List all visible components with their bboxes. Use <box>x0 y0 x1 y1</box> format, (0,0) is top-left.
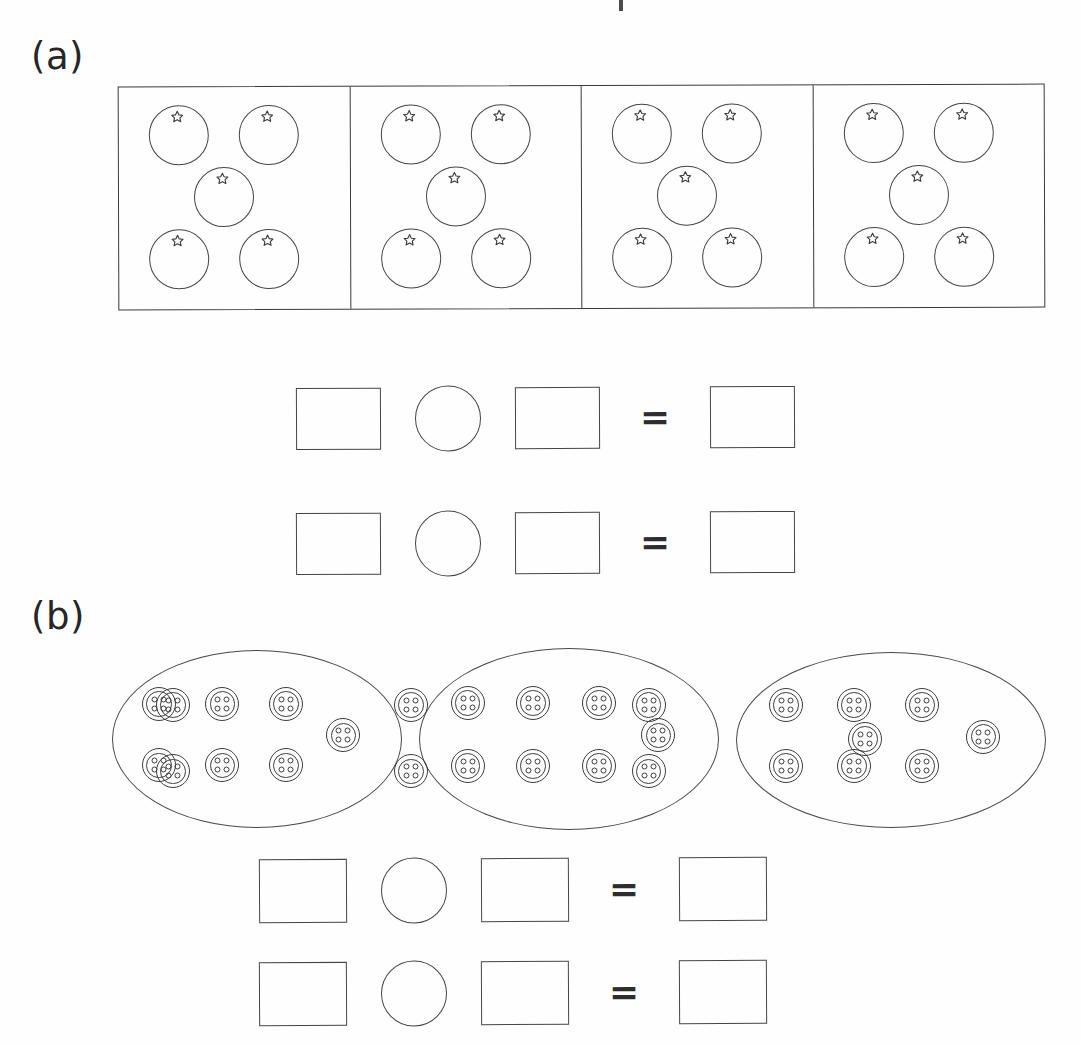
button-icon <box>394 688 428 722</box>
answer-box[interactable] <box>259 859 347 923</box>
button-hole <box>174 698 180 704</box>
button-hole <box>600 705 606 711</box>
circle-with-star <box>702 103 762 163</box>
button-icon <box>205 748 239 782</box>
equation-row-b2: = <box>259 957 768 1030</box>
button-hole <box>403 698 409 704</box>
button-hole <box>591 758 597 764</box>
answer-box[interactable] <box>481 858 569 922</box>
star-icon <box>493 233 506 246</box>
button-holes <box>403 764 418 779</box>
button-hole <box>224 767 230 773</box>
panel-1 <box>119 87 351 310</box>
button-hole <box>526 696 532 702</box>
button-holes <box>460 758 475 773</box>
button-hole <box>914 698 920 704</box>
button-hole <box>985 738 991 744</box>
button-hole <box>460 767 466 773</box>
button-icon <box>451 686 485 720</box>
button-icon <box>905 749 939 783</box>
button-icon <box>394 754 428 788</box>
button-hole <box>287 767 293 773</box>
star-icon <box>865 108 878 121</box>
circle-with-star <box>844 227 904 287</box>
button-icon <box>966 720 1000 754</box>
answer-box[interactable] <box>710 386 795 448</box>
button-icon <box>837 688 871 722</box>
button-hole <box>976 729 982 735</box>
button-icon <box>156 688 190 722</box>
button-hole <box>469 758 475 764</box>
button-hole <box>857 732 863 738</box>
button-hole <box>469 705 475 711</box>
button-holes <box>847 698 862 713</box>
equals-sign: = <box>609 871 639 907</box>
button-hole <box>403 773 409 779</box>
answer-box[interactable] <box>296 388 381 450</box>
button-icon <box>269 748 303 782</box>
button-hole <box>165 698 171 704</box>
equation-row-b1: = <box>259 854 768 927</box>
circle-with-star <box>471 228 531 288</box>
panel-strip-a <box>118 84 1046 311</box>
button-hole <box>278 767 284 773</box>
button-hole <box>460 696 466 702</box>
button-hole <box>857 741 863 747</box>
button-holes <box>336 728 351 743</box>
answer-box[interactable] <box>259 962 347 1026</box>
star-icon <box>910 170 923 183</box>
answer-box[interactable] <box>515 512 600 574</box>
button-hole <box>287 705 293 711</box>
circle-with-star <box>149 229 209 289</box>
ellipse-group-2 <box>419 648 719 830</box>
equation-row-a1: = <box>296 382 795 454</box>
equals-sign: = <box>640 399 670 435</box>
circle-with-star <box>702 227 762 287</box>
button-hole <box>650 698 656 704</box>
button-icon <box>848 722 882 756</box>
star-icon <box>216 172 229 185</box>
star-icon <box>492 109 505 122</box>
button-holes <box>847 759 862 774</box>
answer-box[interactable] <box>710 511 795 573</box>
button-hole <box>460 758 466 764</box>
button-hole <box>779 759 785 765</box>
button-holes <box>641 698 656 713</box>
button-hole <box>856 707 862 713</box>
operator-circle[interactable] <box>381 857 447 923</box>
panel-2 <box>350 86 582 309</box>
button-holes <box>779 759 794 774</box>
button-hole <box>600 758 606 764</box>
button-hole <box>174 773 180 779</box>
button-hole <box>469 696 475 702</box>
circle-with-star <box>381 228 441 288</box>
circle-with-star <box>934 227 994 287</box>
operator-circle[interactable] <box>381 960 447 1026</box>
star-icon <box>679 171 692 184</box>
star-icon <box>171 110 184 123</box>
button-hole <box>535 705 541 711</box>
circle-with-star <box>933 103 993 163</box>
equals-sign: = <box>609 974 639 1010</box>
button-hole <box>287 696 293 702</box>
button-hole <box>535 758 541 764</box>
answer-box[interactable] <box>679 857 767 921</box>
answer-box[interactable] <box>515 387 600 449</box>
button-hole <box>650 764 656 770</box>
circle-with-star <box>425 166 485 226</box>
button-icon <box>582 749 616 783</box>
operator-circle[interactable] <box>415 510 481 576</box>
button-hole <box>165 764 171 770</box>
button-hole <box>591 696 597 702</box>
button-hole <box>403 764 409 770</box>
button-hole <box>535 696 541 702</box>
answer-box[interactable] <box>296 513 381 575</box>
answer-box[interactable] <box>679 960 767 1024</box>
answer-box[interactable] <box>481 961 569 1025</box>
button-hole <box>650 707 656 713</box>
button-hole <box>403 707 409 713</box>
star-icon <box>402 110 415 123</box>
operator-circle[interactable] <box>415 385 481 451</box>
button-hole <box>287 758 293 764</box>
button-holes <box>976 729 991 744</box>
